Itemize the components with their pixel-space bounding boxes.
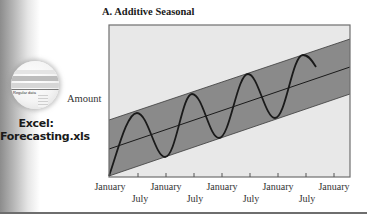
x-tick-label-january-4: January — [262, 181, 293, 192]
x-tick-label-july-1: July — [132, 193, 149, 204]
x-tick-label-july-4: July — [299, 193, 316, 204]
x-tick-label-january-3: January — [206, 181, 237, 192]
x-tick-label-january-1: January — [94, 181, 125, 192]
x-tick-label-january-2: January — [150, 181, 181, 192]
x-tick-label-july-2: July — [187, 193, 204, 204]
chart-plot — [0, 0, 367, 217]
x-tick-label-january-5: January — [318, 181, 349, 192]
x-tick-label-july-3: July — [243, 193, 260, 204]
bottom-divider-rule — [0, 212, 367, 214]
